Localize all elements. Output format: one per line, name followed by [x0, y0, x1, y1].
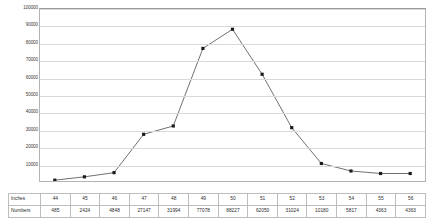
table-cell: 5817: [337, 206, 367, 218]
gridline: [40, 26, 425, 27]
table-cell: 88227: [218, 206, 248, 218]
table-cell: 4363: [396, 206, 426, 218]
table-cell: 54: [337, 194, 367, 206]
y-tick-label: 30000: [26, 128, 38, 133]
table-cell: 56: [396, 194, 426, 206]
table-cell: 31024: [277, 206, 307, 218]
table-cell: 46: [100, 194, 130, 206]
y-tick-label: 70000: [26, 58, 38, 63]
table-cell: 55: [366, 194, 396, 206]
y-tick-label: 80000: [26, 41, 38, 46]
table-cell: 53: [307, 194, 337, 206]
table-cell: 51: [248, 194, 278, 206]
data-point-marker: [290, 126, 293, 129]
y-tick-label: 90000: [26, 23, 38, 28]
gridline: [40, 61, 425, 62]
data-point-marker: [142, 133, 145, 136]
table-cell: 4848: [100, 206, 130, 218]
table-cell: 50: [218, 194, 248, 206]
y-tick-label: 100000: [23, 6, 38, 11]
gridline: [40, 113, 425, 114]
line-chart: 1000020000300004000050000600007000080000…: [8, 8, 426, 192]
data-point-marker: [201, 47, 204, 50]
gridline: [40, 166, 425, 167]
table-cell: 44: [41, 194, 71, 206]
table-row: Inches44454647484950515253545556: [9, 194, 426, 206]
data-point-marker: [409, 172, 412, 175]
y-tick-label: 10000: [26, 162, 38, 167]
gridline: [40, 44, 425, 45]
chart-screenshot: 1000020000300004000050000600007000080000…: [0, 0, 434, 224]
table-cell: 485: [41, 206, 71, 218]
series-line: [55, 29, 410, 180]
y-tick-label: 60000: [26, 75, 38, 80]
table-cell: 62050: [248, 206, 278, 218]
table-cell: 31994: [159, 206, 189, 218]
table-row: Numbers485242448482714731994770788822762…: [9, 206, 426, 218]
table-cell: 45: [70, 194, 100, 206]
data-point-marker: [53, 179, 56, 182]
table-cell: 52: [277, 194, 307, 206]
gridline: [40, 148, 425, 149]
data-point-marker: [320, 162, 323, 165]
gridline: [40, 131, 425, 132]
y-axis: 1000020000300004000050000600007000080000…: [8, 8, 38, 182]
data-series-numbers: [40, 9, 425, 181]
gridline: [40, 96, 425, 97]
table-cell: 27147: [129, 206, 159, 218]
table-cell: 49: [189, 194, 219, 206]
y-tick-label: 50000: [26, 93, 38, 98]
table-cell: 48: [159, 194, 189, 206]
data-point-marker: [231, 28, 234, 31]
data-point-marker: [83, 175, 86, 178]
gridline: [40, 9, 425, 10]
y-tick-label: 20000: [26, 145, 38, 150]
y-tick-label: 40000: [26, 110, 38, 115]
table-cell: 77078: [189, 206, 219, 218]
series-markers: [53, 28, 412, 182]
table-cell: 10180: [307, 206, 337, 218]
table-cell: 47: [129, 194, 159, 206]
data-point-marker: [261, 73, 264, 76]
table-cell: 4363: [366, 206, 396, 218]
table-row-header: Inches: [9, 194, 41, 206]
plot-area: [39, 8, 426, 182]
table-cell: 2424: [70, 206, 100, 218]
data-point-marker: [349, 169, 352, 172]
data-point-marker: [112, 171, 115, 174]
gridline: [40, 79, 425, 80]
data-point-marker: [172, 124, 175, 127]
data-table: Inches44454647484950515253545556Numbers4…: [8, 193, 426, 218]
table-row-header: Numbers: [9, 206, 41, 218]
data-point-marker: [379, 172, 382, 175]
